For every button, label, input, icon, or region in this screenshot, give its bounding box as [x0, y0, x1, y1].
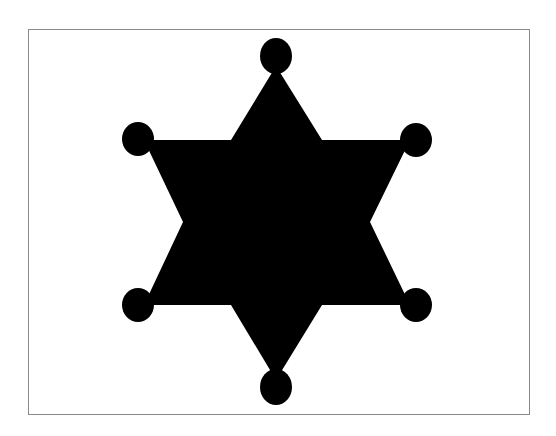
star-tip-ball [122, 122, 154, 156]
star-tip-ball [400, 123, 432, 157]
star-tip-ball [260, 38, 292, 74]
sheriff-star-icon [0, 0, 556, 436]
star-tip-ball [260, 369, 292, 405]
star-tip-ball [122, 288, 154, 322]
image-canvas [0, 0, 556, 436]
star-tip-ball [400, 288, 432, 322]
star-body [144, 66, 410, 380]
